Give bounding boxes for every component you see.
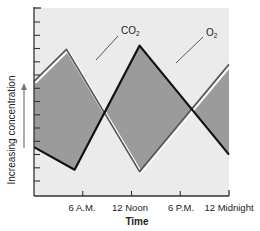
chart: 6 A.M. 12 Noon 6 P.M. 12 Midnight Time I… (0, 0, 260, 231)
x-tick-label: 12 Noon (112, 202, 148, 213)
x-tick-label: 12 Midnight (204, 202, 253, 213)
y-axis-arrow (21, 83, 27, 148)
x-tick-label: 6 P.M. (168, 202, 194, 213)
x-tick-label: 6 A.M. (69, 202, 96, 213)
x-axis-title: Time (125, 216, 149, 227)
y-axis-title: Increasing concentration (6, 76, 17, 185)
